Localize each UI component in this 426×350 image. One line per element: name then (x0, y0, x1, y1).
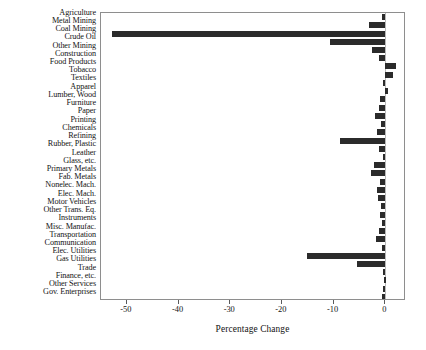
bar (380, 212, 385, 218)
bar (379, 228, 385, 234)
bar (379, 105, 386, 111)
bar (377, 187, 386, 193)
x-tick-label: 0 (382, 305, 386, 315)
bar (383, 80, 386, 86)
bar (375, 113, 385, 119)
bar (382, 14, 385, 20)
bar (384, 277, 386, 283)
bar (382, 220, 386, 226)
bar (385, 72, 393, 78)
x-tick-label: -20 (275, 305, 286, 315)
x-tick-label: -30 (224, 305, 235, 315)
category-label-axis: AgricultureMetal MiningCoal MiningCrude … (0, 9, 96, 299)
x-tick-label: -50 (120, 305, 131, 315)
bar (379, 55, 385, 61)
bar (382, 245, 385, 251)
bar (382, 294, 386, 300)
chart-page: AgricultureMetal MiningCoal MiningCrude … (0, 0, 426, 350)
bar (381, 121, 385, 127)
bar (380, 179, 386, 185)
bar (385, 88, 387, 94)
x-tick-label: -10 (327, 305, 338, 315)
bar (371, 170, 385, 176)
category-label: Gov. Enterprises (0, 287, 96, 296)
x-tick-label: -40 (172, 305, 183, 315)
bar (377, 129, 385, 135)
bar (383, 286, 386, 292)
bar (383, 269, 385, 275)
x-tick-mark (281, 300, 282, 304)
x-tick-mark (333, 300, 334, 304)
bar (357, 261, 385, 267)
bar (380, 96, 386, 102)
plot-area (100, 12, 405, 300)
bar (379, 146, 386, 152)
bar (340, 138, 385, 144)
bar (383, 154, 386, 160)
x-tick-mark (229, 300, 230, 304)
bar (378, 195, 386, 201)
x-axis-title: Percentage Change (100, 324, 405, 334)
bar (374, 162, 385, 168)
bar (369, 22, 385, 28)
bar (381, 203, 386, 209)
x-tick-mark (384, 300, 385, 304)
bar (307, 253, 385, 259)
bar (372, 47, 385, 53)
zero-reference-line (385, 13, 386, 299)
x-tick-mark (178, 300, 179, 304)
bar (376, 236, 386, 242)
bar (330, 39, 385, 45)
bar (385, 63, 396, 69)
x-tick-mark (126, 300, 127, 304)
bar (112, 31, 385, 37)
